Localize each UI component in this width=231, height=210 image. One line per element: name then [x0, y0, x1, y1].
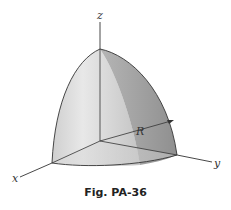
x-axis: [20, 163, 52, 177]
octant-sphere-diagram: z x y R: [0, 0, 231, 210]
radius-label: R: [135, 125, 144, 138]
x-axis-label: x: [12, 172, 19, 185]
y-axis: [177, 155, 212, 162]
z-axis-label: z: [96, 9, 103, 22]
figure-caption: Fig. PA-36: [0, 186, 231, 199]
y-axis-label: y: [213, 157, 221, 170]
